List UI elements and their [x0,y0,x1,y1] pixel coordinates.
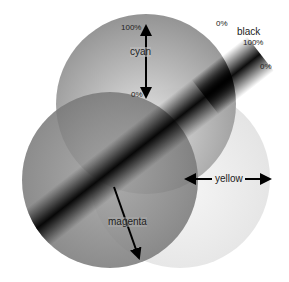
cyan-0-label: 0% [131,91,143,99]
black-100-label: 100% [243,39,263,47]
black-label: black [237,27,260,37]
black-0-left-label: 0% [216,20,228,28]
magenta-label: magenta [108,217,147,227]
black-0-right-label: 0% [260,63,272,71]
yellow-label: yellow [215,174,243,184]
cyan-100-label: 100% [121,24,141,32]
cyan-label: cyan [130,47,151,57]
